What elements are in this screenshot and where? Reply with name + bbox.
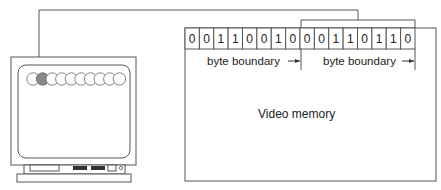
bit-value: 1 (232, 32, 239, 46)
bit-value: 0 (361, 32, 368, 46)
video-memory-box (185, 28, 436, 181)
connector-bracket-second-byte (301, 20, 415, 28)
power-switch (108, 165, 116, 171)
bit-value: 0 (304, 32, 311, 46)
bit-value: 0 (404, 32, 411, 46)
bit-value: 1 (218, 32, 225, 46)
byte-boundary-label: byte boundary (207, 55, 280, 67)
disk-drive-slot (30, 165, 59, 171)
bit-value: 1 (376, 32, 383, 46)
bit-value: 0 (189, 32, 196, 46)
bit-value: 1 (275, 32, 282, 46)
bit-value: 1 (347, 32, 354, 46)
bit-value: 0 (318, 32, 325, 46)
control-button (91, 166, 105, 170)
control-button (73, 166, 87, 170)
byte-boundary-label: byte boundary (323, 55, 396, 67)
pixel-row (27, 73, 126, 85)
video-memory-label: Video memory (258, 107, 335, 121)
video-memory: 0011001000110110 byte boundary byte boun… (185, 28, 436, 181)
power-indicator-icon (119, 166, 122, 169)
bit-value: 0 (289, 32, 296, 46)
monitor (11, 57, 136, 182)
bit-value: 1 (390, 32, 397, 46)
bit-value: 1 (333, 32, 340, 46)
diagram-canvas: 0011001000110110 byte boundary byte boun… (0, 0, 441, 190)
bit-value: 0 (203, 32, 210, 46)
pixel (113, 73, 125, 85)
bit-value: 0 (246, 32, 253, 46)
keyboard-tray (17, 174, 131, 182)
bit-row: 0011001000110110 (185, 28, 415, 49)
bit-value: 0 (261, 32, 268, 46)
